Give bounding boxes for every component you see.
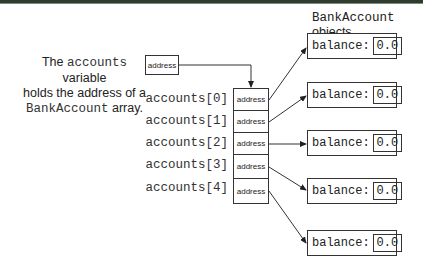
arrow-0 [269,48,306,100]
pointer-arrows [0,0,423,269]
arrow-1 [269,96,306,122]
arrow-variable-to-array [179,65,251,87]
arrow-3 [269,167,306,190]
arrow-4 [269,191,306,243]
